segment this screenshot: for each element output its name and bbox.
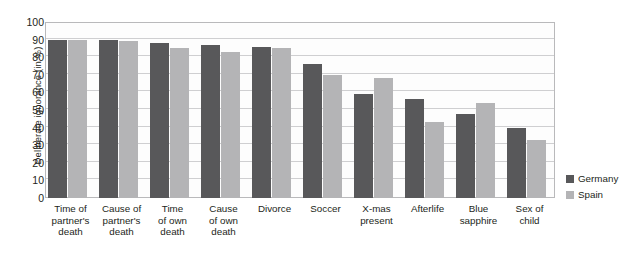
x-axis-tick-label: Sex ofchild	[499, 203, 560, 226]
legend-label: Spain	[578, 190, 603, 200]
legend-item-germany: Germany	[566, 172, 636, 186]
bar-spain	[221, 52, 240, 198]
y-axis-tick-label: 0	[16, 193, 44, 203]
y-axis-tick-label: 40	[16, 123, 44, 133]
bar-group	[300, 22, 351, 198]
bar-germany	[405, 99, 424, 198]
bar-spain	[272, 48, 291, 198]
bar-spain	[68, 40, 87, 198]
bar-group	[351, 22, 402, 198]
bar-group	[249, 22, 300, 198]
bar-spain	[374, 78, 393, 198]
bar-spain	[119, 41, 138, 198]
y-axis-tick-label: 80	[16, 52, 44, 62]
bar-chart: Deliberate ignorance (in %) 100908070605…	[0, 0, 636, 262]
bar-spain	[323, 75, 342, 198]
legend-swatch-icon	[566, 175, 574, 183]
legend-swatch-icon	[566, 191, 574, 199]
x-axis-tick-label-line: of own	[193, 215, 254, 227]
bar-spain	[425, 122, 444, 198]
bar-group	[96, 22, 147, 198]
bar-spain	[527, 140, 546, 198]
bar-spain	[476, 103, 495, 198]
x-axis-tick-label-line: death	[193, 226, 254, 238]
bar-germany	[354, 94, 373, 198]
y-axis-tick-label: 50	[16, 105, 44, 115]
bar-germany	[99, 40, 118, 198]
y-axis-tick-label: 20	[16, 158, 44, 168]
legend-item-spain: Spain	[566, 188, 636, 202]
legend-label: Germany	[578, 174, 618, 184]
y-axis-tick-label: 90	[16, 35, 44, 45]
bars-layer	[45, 22, 555, 198]
x-axis-tick-labels: Time ofpartner'sdeathCause ofpartner'sde…	[45, 203, 555, 253]
y-axis-tick-label: 60	[16, 87, 44, 97]
bar-germany	[303, 64, 322, 198]
y-axis-tick-label: 10	[16, 175, 44, 185]
bar-germany	[507, 128, 526, 198]
y-axis-tick-label: 30	[16, 140, 44, 150]
bar-germany	[201, 45, 220, 198]
bar-spain	[170, 48, 189, 198]
bar-group	[198, 22, 249, 198]
bar-group	[147, 22, 198, 198]
bar-group	[402, 22, 453, 198]
bar-germany	[456, 114, 475, 198]
bar-group	[45, 22, 96, 198]
legend: GermanySpain	[566, 172, 636, 204]
bar-germany	[48, 40, 67, 198]
y-axis-tick-label: 100	[16, 17, 44, 27]
bar-germany	[150, 43, 169, 198]
bar-germany	[252, 47, 271, 198]
x-axis-tick-label-line: Sex of	[499, 203, 560, 215]
bar-group	[453, 22, 504, 198]
bar-group	[504, 22, 555, 198]
x-axis-tick-label-line: present	[346, 215, 407, 227]
x-axis-tick-label-line: child	[499, 215, 560, 227]
y-axis-tick-label: 70	[16, 70, 44, 80]
